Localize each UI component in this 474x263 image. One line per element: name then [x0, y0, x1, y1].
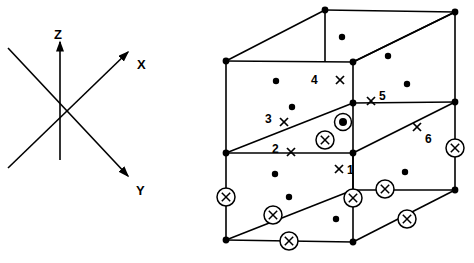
v-top-back-left: [322, 7, 329, 14]
circled-x-6: [344, 189, 362, 207]
circled-x-8: [280, 232, 298, 250]
axis-label-z: Z: [54, 28, 62, 41]
x-mark-3: [280, 118, 288, 126]
site-label-3: 3: [265, 113, 272, 125]
dot-3: [273, 78, 279, 84]
coordinate-axis-group: [8, 42, 128, 176]
dot-9: [333, 216, 339, 222]
circled-x-2: [217, 188, 235, 206]
v-mid-back-right: [452, 99, 459, 106]
dot-5: [289, 104, 295, 110]
site-label-6: 6: [425, 133, 432, 145]
diagram-canvas: [0, 0, 474, 263]
circled-x-5: [264, 206, 282, 224]
circled-x-1: [316, 131, 334, 149]
e-mid-left-diag: [226, 103, 353, 153]
x-axis: [8, 52, 128, 168]
circled-x-3: [446, 139, 464, 157]
site-label-2: 2: [272, 143, 279, 155]
dot-1: [339, 34, 345, 40]
e-mid-right-diag: [353, 102, 455, 153]
v-bot-front-left: [223, 237, 230, 244]
circled-x-4: [376, 180, 394, 198]
y-axis: [8, 48, 128, 176]
axis-label-y: Y: [136, 184, 145, 197]
circled-x-7: [398, 210, 416, 228]
e-top-left-diag: [226, 10, 325, 61]
e-top-front: [226, 61, 353, 62]
dot-8: [286, 194, 292, 200]
x-mark-4: [287, 148, 295, 156]
v-top-front-left: [223, 58, 230, 65]
x-mark-1: [336, 76, 344, 84]
v-top-front-right: [350, 59, 357, 66]
x-mark-6: [413, 123, 421, 131]
v-bot-back-right: [452, 187, 459, 194]
v-top-back-right: [452, 9, 459, 16]
site-label-1: 1: [347, 164, 354, 176]
v-mid-center: [350, 150, 357, 157]
v-mid-front-left: [223, 150, 230, 157]
lattice-diagram-figure: ZXY 453621: [0, 0, 474, 263]
axis-label-x: X: [137, 58, 146, 71]
site-label-5: 5: [379, 90, 386, 102]
v-bot-front-right: [350, 239, 357, 246]
x-mark-2: [367, 97, 375, 105]
dot-7: [402, 169, 408, 175]
circled-dot-marker-group: [335, 114, 352, 131]
circled-dot-1: [335, 114, 352, 131]
dot-4: [404, 81, 410, 87]
e-top-front-ext: [353, 12, 455, 62]
v-mid-front-right: [350, 100, 357, 107]
e-top-back: [325, 10, 455, 12]
dot-2: [385, 53, 391, 59]
dot-6: [272, 171, 278, 177]
site-label-4: 4: [311, 74, 318, 86]
x-mark-5: [335, 165, 343, 173]
